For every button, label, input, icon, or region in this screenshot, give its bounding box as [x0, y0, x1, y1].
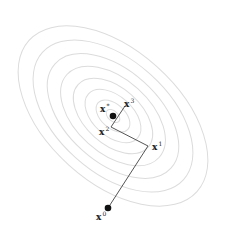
contour-diagram	[0, 0, 226, 230]
label-x-star: x*	[100, 103, 109, 114]
label-x1: x1	[152, 141, 162, 152]
label-x2: x2	[99, 126, 109, 137]
label-x0: x0	[96, 211, 106, 222]
descent-path	[108, 106, 148, 208]
label-x3: x3	[124, 98, 134, 109]
optimum-point-marker	[110, 113, 117, 120]
